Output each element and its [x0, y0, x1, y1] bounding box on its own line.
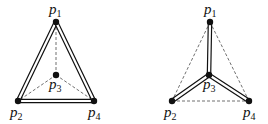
- node-p1: [53, 19, 59, 25]
- node-label-p2: p2: [9, 104, 23, 122]
- node-p1: [207, 19, 213, 25]
- double-edge-p1-p4: [56, 22, 94, 101]
- double-edge-p1-p3: [209, 22, 210, 75]
- node-label-p3: p3: [48, 76, 62, 94]
- star-diagram-right: p1p2p3p4: [163, 1, 256, 122]
- node-label-p2: p2: [163, 104, 177, 122]
- node-label-p4: p4: [242, 104, 256, 122]
- node-label-p1: p1: [48, 1, 62, 19]
- triangle-diagram-left: p1p2p3p4: [9, 1, 101, 122]
- node-label-p4: p4: [87, 104, 101, 122]
- diagram-canvas: p1p2p3p4 p1p2p3p4: [0, 0, 268, 124]
- node-label-p1: p1: [203, 1, 217, 19]
